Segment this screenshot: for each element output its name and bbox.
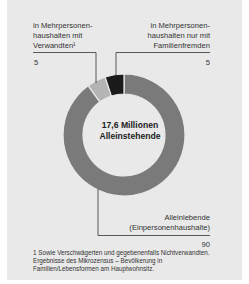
footnote: 1 Sowie Verschwägerten und gegebenenfall… bbox=[33, 249, 243, 273]
label-familienfremde: in Mehrpersonen- haushalten nur mit Fami… bbox=[130, 21, 210, 51]
label-line: Verwandten¹ bbox=[33, 41, 93, 51]
label-line: haushalten mit bbox=[33, 31, 93, 41]
footnote-line: Familien/Lebensformen am Hauptwohnsitz. bbox=[33, 265, 243, 273]
leader-line-left bbox=[33, 53, 96, 84]
label-line: haushalten nur mit bbox=[130, 31, 210, 41]
label-line: Alleinlebende bbox=[110, 213, 210, 223]
value-alleinlebende: 90 bbox=[180, 240, 210, 249]
label-line: Familienfremden bbox=[130, 41, 210, 51]
label-line: in Mehrpersonen- bbox=[130, 21, 210, 31]
donut-center-label: 17,6 Millionen Alleinstehende bbox=[90, 120, 170, 142]
center-line-2: Alleinstehende bbox=[90, 131, 170, 142]
label-line: (Einpersonenhaushalte) bbox=[110, 223, 210, 233]
center-line-1: 17,6 Millionen bbox=[90, 120, 170, 131]
value-familienfremde: 5 bbox=[190, 58, 210, 67]
label-verwandten: in Mehrpersonen- haushalten mit Verwandt… bbox=[33, 21, 93, 51]
value-verwandten: 5 bbox=[34, 58, 38, 67]
label-alleinlebende: Alleinlebende (Einpersonenhaushalte) bbox=[110, 213, 210, 233]
label-line: in Mehrpersonen- bbox=[33, 21, 93, 31]
footnote-line: Ergebnisse des Mikrozensus – Bevölkerung… bbox=[33, 257, 243, 265]
footnote-line: 1 Sowie Verschwägerten und gegebenenfall… bbox=[33, 249, 243, 257]
